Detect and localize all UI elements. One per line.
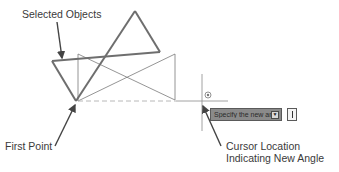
first-point-arrow: [55, 105, 75, 146]
down-arrow-icon[interactable]: ▼: [271, 111, 279, 119]
dynamic-input-prompt: Specify the new angle or: [211, 111, 271, 118]
selected-objects-label: Selected Objects: [22, 8, 101, 20]
rotate-cursor-icon: [205, 92, 211, 98]
selected-objects-arrow: [57, 22, 62, 58]
first-point-label: First Point: [5, 140, 52, 152]
angle-value-input[interactable]: [287, 108, 297, 121]
cursor-location-label-line2: Indicating New Angle: [226, 152, 324, 164]
crosshair-cursor: [176, 74, 228, 131]
dynamic-input-tooltip[interactable]: Specify the new angle or ▼: [210, 108, 282, 121]
cursor-location-label-line1: Cursor Location: [226, 140, 300, 152]
text-cursor: [292, 111, 293, 118]
